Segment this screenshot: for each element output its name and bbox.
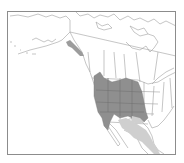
north-america-map bbox=[8, 12, 176, 155]
map-caption bbox=[90, 0, 180, 4]
coastlines-and-borders bbox=[10, 12, 176, 154]
range-map bbox=[7, 11, 176, 155]
range-area-alaska bbox=[66, 40, 84, 56]
